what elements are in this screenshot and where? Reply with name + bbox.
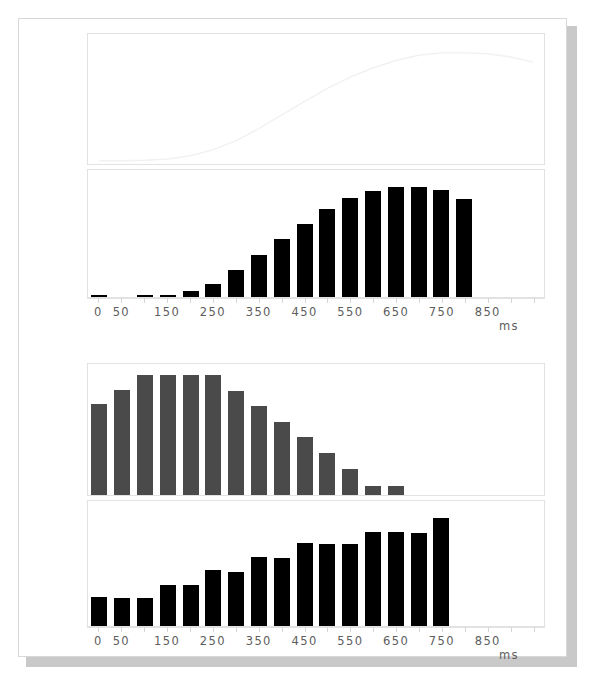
- x-tick-mark: [121, 627, 122, 632]
- bar: [274, 558, 290, 626]
- x-tick-mark: [236, 298, 237, 303]
- x-tick-mark: [236, 627, 237, 632]
- y-tick-label: 4,00: [87, 561, 88, 575]
- bar: [137, 295, 153, 297]
- x-tick-mark: [442, 298, 443, 303]
- bar: [251, 255, 267, 297]
- bar: [319, 453, 335, 495]
- bar: [160, 295, 176, 297]
- x-tick-mark: [121, 298, 122, 303]
- x-tick-mark: [511, 298, 512, 303]
- x-tick-label: 850: [475, 634, 501, 648]
- chart-panel-3: 0,002,004,006,008,00: [87, 363, 545, 496]
- x-tick-mark: [144, 298, 145, 303]
- x-tick-label: 550: [337, 634, 363, 648]
- panel-3-plot-area: 0,002,004,006,008,00: [87, 363, 545, 496]
- x-axis-top: 050150250350450550650750850: [87, 298, 545, 324]
- x-tick-mark: [511, 627, 512, 632]
- x-tick-label: 0: [94, 634, 103, 648]
- bar: [274, 239, 290, 297]
- bar: [251, 557, 267, 626]
- x-tick-mark: [419, 298, 420, 303]
- y-tick-label: 4,00: [87, 231, 88, 245]
- bar: [342, 469, 358, 495]
- x-tick-mark: [259, 298, 260, 303]
- x-tick-mark: [282, 627, 283, 632]
- x-tick-mark: [98, 627, 99, 632]
- x-tick-label: 650: [383, 634, 409, 648]
- x-tick-label: 450: [291, 305, 317, 319]
- bar: [228, 270, 244, 297]
- bar: [297, 437, 313, 495]
- bar: [342, 544, 358, 626]
- bar: [433, 518, 449, 626]
- panel-1-plot-area: 0,002,004,006,008,00: [87, 33, 545, 165]
- x-tick-mark: [190, 627, 191, 632]
- x-tick-mark: [534, 298, 535, 303]
- bar: [411, 187, 427, 297]
- y-tick-label: 2,00: [87, 260, 88, 274]
- bar: [183, 291, 199, 297]
- x-tick-mark: [305, 627, 306, 632]
- x-tick-label: 250: [200, 634, 226, 648]
- bar: [411, 533, 427, 626]
- bar: [183, 585, 199, 626]
- cumulative-curve: [88, 34, 544, 164]
- x-tick-mark: [373, 298, 374, 303]
- bar: [137, 598, 153, 626]
- x-tick-mark: [442, 627, 443, 632]
- x-tick-mark: [419, 627, 420, 632]
- y-tick-label: 4,00: [87, 427, 88, 441]
- y-tick-label: 8,00: [87, 172, 88, 186]
- y-tick-label: 8,00: [87, 503, 88, 517]
- bar: [228, 572, 244, 627]
- x-tick-label: 750: [429, 305, 455, 319]
- x-tick-mark: [465, 627, 466, 632]
- bar: [183, 375, 199, 495]
- bar: [137, 375, 153, 495]
- x-tick-mark: [488, 627, 489, 632]
- y-tick-label: 6,00: [87, 397, 88, 411]
- bar: [205, 284, 221, 297]
- x-tick-mark: [465, 298, 466, 303]
- bar: [91, 295, 107, 297]
- x-tick-mark: [350, 298, 351, 303]
- x-axis-line: [87, 298, 545, 299]
- x-tick-label: 150: [154, 305, 180, 319]
- bar: [388, 486, 404, 495]
- bar: [205, 375, 221, 495]
- x-tick-mark: [534, 627, 535, 632]
- x-tick-label: 150: [154, 634, 180, 648]
- bar: [114, 390, 130, 495]
- y-tick-label: 0,00: [87, 619, 88, 627]
- bar: [342, 198, 358, 297]
- x-tick-label: 450: [291, 634, 317, 648]
- x-tick-mark: [305, 298, 306, 303]
- bar: [160, 585, 176, 626]
- figure-canvas: 0,002,004,006,008,00 0,002,004,006,008,0…: [0, 0, 594, 684]
- x-tick-mark: [98, 298, 99, 303]
- bar: [114, 598, 130, 626]
- bar: [456, 199, 472, 297]
- x-tick-mark: [327, 298, 328, 303]
- x-tick-label: 650: [383, 305, 409, 319]
- chart-panel-1: 0,002,004,006,008,00: [87, 33, 545, 165]
- x-tick-mark: [396, 298, 397, 303]
- x-tick-label: 550: [337, 305, 363, 319]
- x-tick-mark: [144, 627, 145, 632]
- bar: [388, 187, 404, 297]
- bar: [319, 544, 335, 626]
- y-tick-label: 6,00: [87, 532, 88, 546]
- bar: [205, 570, 221, 626]
- x-tick-mark: [373, 627, 374, 632]
- bar: [297, 224, 313, 297]
- panel-4-plot-area: 0,002,004,006,008,00: [87, 500, 545, 627]
- x-tick-mark: [396, 627, 397, 632]
- x-tick-label: 350: [246, 305, 272, 319]
- x-tick-mark: [350, 627, 351, 632]
- chart-panel-4: 0,002,004,006,008,00: [87, 500, 545, 627]
- bar: [274, 422, 290, 495]
- bar: [160, 375, 176, 495]
- chart-panel-2: 0,002,004,006,008,00: [87, 169, 545, 298]
- y-tick-label: 8,00: [87, 366, 88, 380]
